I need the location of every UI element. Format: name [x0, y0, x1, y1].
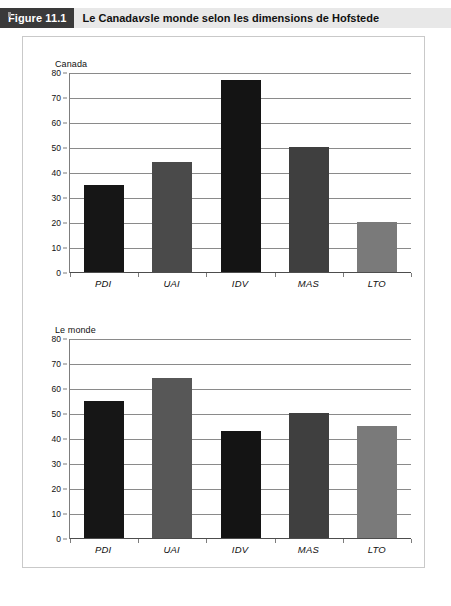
y-tick-mark — [63, 98, 67, 99]
y-tick-label: 50 — [52, 144, 61, 152]
chart-monde-caption: Le monde — [55, 325, 411, 336]
y-tick-mark — [63, 414, 67, 415]
x-tick-mark — [343, 273, 344, 277]
bar-slot — [70, 73, 138, 272]
y-tick-mark — [63, 439, 67, 440]
bar-slot — [343, 73, 411, 272]
x-label-mas: MAS — [274, 278, 342, 289]
x-tick-mark — [206, 539, 207, 543]
y-tick-label: 20 — [52, 219, 61, 227]
x-tick-mark — [138, 273, 139, 277]
chart-monde-x-axis-line — [70, 538, 411, 539]
x-tick-mark — [275, 273, 276, 277]
chart-monde-plot-area — [69, 339, 411, 539]
y-tick-label: 10 — [52, 244, 61, 252]
x-tick-mark — [70, 273, 71, 277]
y-tick-mark — [63, 514, 67, 515]
y-tick-label: 50 — [52, 410, 61, 418]
x-tick-mark — [70, 539, 71, 543]
figure-number-badge: Figure 11.1 — [0, 8, 74, 28]
y-tick-mark — [63, 273, 67, 274]
y-tick-label: 80 — [52, 335, 61, 343]
x-tick-mark — [411, 539, 412, 543]
bar-idv[interactable] — [221, 80, 261, 273]
chart-canada-x-axis-line — [70, 272, 411, 273]
figure-title-text-part2: le monde selon les dimensions de Hofsted… — [150, 12, 379, 24]
y-tick-mark — [63, 148, 67, 149]
x-label-uai: UAI — [137, 544, 205, 555]
chart-canada-caption: Canada — [55, 59, 411, 70]
y-tick-label: 10 — [52, 510, 61, 518]
chart-monde-bars — [70, 339, 411, 538]
y-tick-label: 30 — [52, 460, 61, 468]
figure-tab-shadow — [8, 12, 11, 17]
chart-monde-y-axis: 01020304050607080 — [39, 339, 61, 539]
y-tick-label: 60 — [52, 385, 61, 393]
figure-frame: Canada 01020304050607080 PDIUAIIDVMASLTO… — [22, 36, 425, 568]
x-label-pdi: PDI — [69, 278, 137, 289]
bar-lto[interactable] — [357, 426, 397, 539]
chart-monde-plot-wrap: 01020304050607080 PDIUAIIDVMASLTO — [39, 339, 411, 561]
bar-slot — [206, 73, 274, 272]
y-tick-mark — [63, 539, 67, 540]
y-tick-mark — [63, 489, 67, 490]
y-tick-label: 20 — [52, 485, 61, 493]
y-tick-label: 0 — [56, 269, 61, 277]
y-tick-label: 40 — [52, 435, 61, 443]
bar-slot — [138, 339, 206, 538]
y-tick-mark — [63, 389, 67, 390]
figure-number-label: Figure 11.1 — [8, 12, 67, 24]
y-tick-mark — [63, 198, 67, 199]
x-label-pdi: PDI — [69, 544, 137, 555]
x-tick-mark — [206, 273, 207, 277]
bar-lto[interactable] — [357, 222, 397, 272]
bar-mas[interactable] — [289, 413, 329, 538]
chart-canada-y-axis: 01020304050607080 — [39, 73, 61, 273]
bar-pdi[interactable] — [84, 185, 124, 273]
x-label-mas: MAS — [274, 544, 342, 555]
y-tick-mark — [63, 364, 67, 365]
x-label-idv: IDV — [206, 278, 274, 289]
x-label-lto: LTO — [343, 278, 411, 289]
x-tick-mark — [411, 273, 412, 277]
y-tick-mark — [63, 73, 67, 74]
chart-canada: Canada 01020304050607080 PDIUAIIDVMASLTO — [39, 59, 411, 309]
chart-monde: Le monde 01020304050607080 PDIUAIIDVMASL… — [39, 325, 411, 577]
y-tick-mark — [63, 248, 67, 249]
bar-uai[interactable] — [152, 162, 192, 272]
x-tick-mark — [343, 539, 344, 543]
y-tick-mark — [63, 223, 67, 224]
bar-idv[interactable] — [221, 431, 261, 539]
bar-mas[interactable] — [289, 147, 329, 272]
figure-title-text-part1: Le Canada — [83, 12, 139, 24]
bar-slot — [275, 339, 343, 538]
bar-slot — [343, 339, 411, 538]
y-tick-label: 60 — [52, 119, 61, 127]
bar-slot — [138, 73, 206, 272]
y-tick-mark — [63, 173, 67, 174]
bar-slot — [70, 339, 138, 538]
y-tick-mark — [63, 464, 67, 465]
y-tick-label: 70 — [52, 360, 61, 368]
x-label-lto: LTO — [343, 544, 411, 555]
figure-title: Le Canada vs le monde selon les dimensio… — [74, 8, 451, 28]
y-tick-label: 0 — [56, 535, 61, 543]
bar-slot — [206, 339, 274, 538]
chart-canada-plot-area — [69, 73, 411, 273]
x-tick-mark — [138, 539, 139, 543]
y-tick-mark — [63, 339, 67, 340]
y-tick-label: 70 — [52, 94, 61, 102]
figure-header: Figure 11.1 Le Canada vs le monde selon … — [0, 8, 451, 28]
y-tick-label: 40 — [52, 169, 61, 177]
chart-canada-plot-wrap: 01020304050607080 PDIUAIIDVMASLTO — [39, 73, 411, 295]
bar-uai[interactable] — [152, 378, 192, 538]
chart-canada-bars — [70, 73, 411, 272]
y-tick-label: 80 — [52, 69, 61, 77]
bar-pdi[interactable] — [84, 401, 124, 539]
figure-title-text-italic: vs — [138, 12, 150, 24]
chart-monde-x-labels: PDIUAIIDVMASLTO — [69, 544, 411, 555]
x-label-uai: UAI — [137, 278, 205, 289]
x-tick-mark — [275, 539, 276, 543]
x-label-idv: IDV — [206, 544, 274, 555]
y-tick-label: 30 — [52, 194, 61, 202]
